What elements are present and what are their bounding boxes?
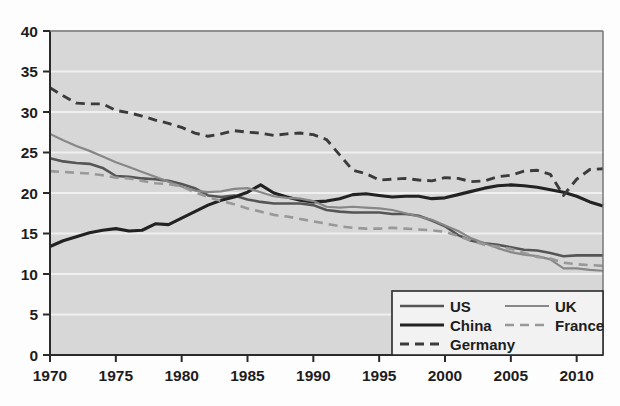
- x-tick-label-2010: 2010: [559, 367, 593, 384]
- x-tick-label-2000: 2000: [428, 367, 462, 384]
- x-tick-label-1975: 1975: [99, 367, 134, 384]
- x-tick-label-2005: 2005: [494, 367, 529, 384]
- y-tick-label-15: 15: [21, 225, 39, 242]
- legend-label-us: US: [450, 298, 471, 315]
- y-tick-label-5: 5: [29, 306, 38, 323]
- legend-label-uk: UK: [555, 298, 577, 315]
- legend-label-germany: Germany: [450, 336, 516, 353]
- x-tick-label-1995: 1995: [362, 367, 397, 384]
- x-axis-ticks: 197019751980198519901995200020052010: [33, 355, 594, 384]
- x-tick-label-1970: 1970: [33, 367, 67, 384]
- y-tick-label-20: 20: [21, 185, 38, 202]
- chart-legend: USUKChinaFranceGermany: [392, 291, 604, 355]
- x-tick-label-1990: 1990: [296, 367, 330, 384]
- y-tick-label-40: 40: [21, 23, 38, 40]
- x-tick-label-1980: 1980: [164, 367, 198, 384]
- y-tick-label-35: 35: [21, 63, 39, 80]
- legend-label-france: France: [555, 317, 604, 334]
- legend-label-china: China: [450, 317, 492, 334]
- y-axis-ticks: 0510152025303540: [21, 23, 50, 364]
- y-tick-label-25: 25: [21, 144, 39, 161]
- y-tick-label-30: 30: [21, 104, 38, 121]
- y-tick-label-0: 0: [29, 347, 38, 364]
- chart-canvas: 0510152025303540 19701975198019851990199…: [0, 0, 620, 406]
- y-tick-label-10: 10: [21, 266, 38, 283]
- x-tick-label-1985: 1985: [230, 367, 265, 384]
- line-chart: 0510152025303540 19701975198019851990199…: [0, 0, 620, 406]
